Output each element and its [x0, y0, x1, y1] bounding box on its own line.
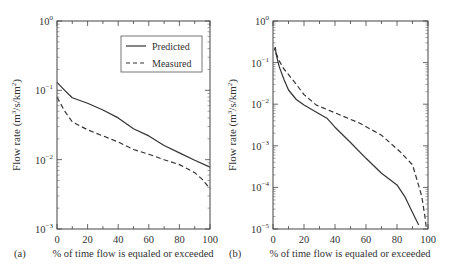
x-tick-label: 40	[330, 234, 341, 245]
panel-b-x-axis-label: % of time flow is equaled or exceeded	[269, 248, 431, 259]
panel-a-series	[57, 82, 210, 188]
x-tick-label: 100	[420, 234, 436, 245]
y-tick-label: 100	[255, 14, 270, 27]
y-tick-label: 10−4	[251, 180, 269, 193]
panel-a-label: (a)	[14, 248, 26, 260]
series-measured-line	[275, 48, 427, 229]
x-tick-label: 0	[54, 234, 59, 245]
x-tick-label: 100	[202, 234, 218, 245]
panel-b-series	[275, 48, 427, 229]
x-tick-label: 80	[392, 234, 403, 245]
series-measured-line	[57, 97, 210, 189]
y-tick-label: 10−2	[251, 97, 269, 110]
y-tick-label: 10−1	[35, 83, 53, 96]
panel-b-y-axis-label: Flow rate (m3/s/km2)	[226, 79, 239, 171]
x-tick-label: 60	[361, 234, 372, 245]
y-tick-label: 10−3	[251, 139, 269, 152]
series-predicted-line	[275, 48, 419, 225]
x-tick-label: 0	[270, 234, 275, 245]
y-tick-label: 10−1	[251, 56, 269, 69]
legend: Predicted Measured	[121, 36, 202, 72]
x-tick-label: 60	[144, 234, 155, 245]
panel-b-label: (b)	[229, 248, 242, 260]
legend-predicted-label: Predicted	[152, 41, 190, 52]
legend-measured-label: Measured	[152, 58, 191, 69]
x-tick-label: 20	[82, 234, 93, 245]
series-predicted-line	[57, 82, 210, 167]
x-tick-label: 20	[299, 234, 310, 245]
panel-a-chart: 02040608010010010−110−210−3 Flow rate (m…	[10, 14, 218, 260]
y-tick-label: 10−3	[35, 222, 53, 235]
panel-a-x-axis-label: % of time flow is equaled or exceeded	[52, 248, 214, 259]
x-tick-label: 80	[174, 234, 185, 245]
panel-b-tick-labels: 02040608010010010−110−210−310−410−5	[251, 14, 436, 245]
y-tick-label: 10−5	[251, 222, 269, 235]
x-tick-label: 40	[113, 234, 124, 245]
panel-b-chart: 02040608010010010−110−210−310−410−5 Flow…	[226, 14, 436, 260]
y-tick-label: 10−2	[35, 153, 53, 166]
panel-a-y-axis-label: Flow rate (m3/s/km2)	[10, 79, 23, 171]
y-tick-label: 100	[39, 14, 54, 27]
figure: 02040608010010010−110−210−3 Flow rate (m…	[0, 0, 452, 274]
